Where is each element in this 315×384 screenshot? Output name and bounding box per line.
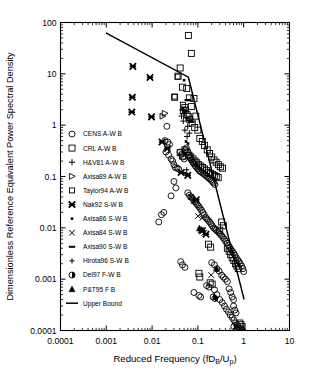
legend-item[interactable]: Nak92 S-W B <box>69 201 124 208</box>
marker-square <box>69 145 75 151</box>
x-tick-label: 0.01 <box>144 336 161 346</box>
legend-item[interactable]: Upper Bound <box>66 300 122 308</box>
legend-label: CRL A-W B <box>83 145 117 152</box>
marker-dot <box>183 79 186 82</box>
marker-circle <box>198 294 204 300</box>
marker-triangle-right <box>69 173 75 179</box>
legend-item[interactable]: Axisa89 A-W B <box>69 173 127 180</box>
x-tick-label: 10 <box>285 336 295 346</box>
y-tick-label: 100 <box>42 18 57 28</box>
x-axis-title: Reduced Frequency (fDB/Up) <box>113 353 236 366</box>
legend-item[interactable]: P&T95 F B <box>69 286 116 293</box>
marker-star <box>130 63 136 69</box>
legend-item[interactable]: Hirota96 S-W B <box>69 257 129 264</box>
figure-container: 0.00010.0010.010.11101001010.10.010.0010… <box>0 0 315 384</box>
legend-label: Taylor94 A-W B <box>83 187 129 195</box>
legend-label: Axisa89 A-W B <box>83 173 128 180</box>
legend: CENS A-W BCRL A-W BH&V81 A-W BAxisa89 A-… <box>66 130 129 307</box>
marker-plus <box>184 167 189 172</box>
marker-circle <box>69 131 75 137</box>
legend-item[interactable]: Axisa84 S-W B <box>69 229 128 236</box>
legend-item[interactable]: Axisa90 S-W B <box>69 243 128 250</box>
y-tick-label: 10 <box>47 69 57 79</box>
marker-circle <box>182 264 188 270</box>
marker-plus <box>182 127 188 133</box>
marker-circle <box>226 286 232 292</box>
y-tick-label: 0.0001 <box>30 326 57 336</box>
marker-square <box>188 50 194 56</box>
marker-square-small <box>172 94 177 99</box>
marker-circle <box>171 178 177 184</box>
marker-circle <box>196 293 202 299</box>
legend-label: Axisa86 S-W B <box>83 215 128 222</box>
y-tick-label: 0.001 <box>35 274 57 284</box>
x-tick-label: 1 <box>241 336 246 346</box>
marker-star <box>148 114 154 120</box>
marker-x <box>69 230 75 236</box>
legend-label: P&T95 F B <box>83 286 116 293</box>
legend-label: Axisa90 S-W B <box>83 243 128 250</box>
marker-square-small <box>70 188 75 193</box>
marker-square <box>185 32 191 38</box>
series-nak92-s-w-b <box>129 63 210 237</box>
legend-item[interactable]: CRL A-W B <box>69 145 117 152</box>
marker-square <box>217 164 223 170</box>
marker-circle <box>231 303 237 309</box>
y-tick-label: 0.1 <box>45 172 57 182</box>
legend-label: Hirota96 S-W B <box>83 257 129 264</box>
marker-plus <box>185 123 191 129</box>
legend-item[interactable]: Taylor94 A-W B <box>70 187 130 195</box>
marker-square <box>177 65 183 71</box>
marker-dot <box>187 142 190 145</box>
marker-dot <box>71 217 74 220</box>
scatter-plot: 0.00010.0010.010.11101001010.10.010.0010… <box>0 0 315 384</box>
marker-star <box>129 94 135 100</box>
marker-plus <box>69 159 75 165</box>
marker-x <box>208 272 214 278</box>
marker-circle <box>156 219 162 225</box>
series-axisa89-a-w-b <box>160 110 168 119</box>
legend-label: H&V81 A-W B <box>83 159 125 166</box>
marker-star <box>147 74 153 80</box>
y-tick-label: 0.01 <box>40 223 57 233</box>
tick-labels: 0.00010.0010.010.11101001010.10.010.0010… <box>30 18 294 346</box>
y-tick-label: 1 <box>52 120 57 130</box>
marker-square-small <box>175 74 180 79</box>
marker-square <box>188 104 194 110</box>
x-tick-label: 0.1 <box>192 336 204 346</box>
legend-label: Axisa84 S-W B <box>83 229 128 236</box>
marker-plus <box>69 258 74 263</box>
marker-triangle-up <box>69 286 75 292</box>
legend-item[interactable]: Del97 F-W B <box>69 271 121 278</box>
marker-star <box>129 109 135 115</box>
marker-circle <box>173 185 179 191</box>
legend-label: Nak92 S-W B <box>83 201 124 208</box>
axis-titles: Reduced Frequency (fDB/Up)Dimensionless … <box>5 52 237 366</box>
marker-square <box>220 165 226 171</box>
legend-label: Upper Bound <box>83 300 122 308</box>
legend-item[interactable]: Axisa86 S-W B <box>71 215 128 222</box>
legend-label: CENS A-W B <box>83 130 122 137</box>
legend-item[interactable]: CENS A-W B <box>69 130 122 137</box>
y-axis-title: Dimensionless Reference Equivalent Power… <box>5 52 15 301</box>
marker-circle <box>164 123 170 129</box>
x-tick-label: 0.0001 <box>47 336 74 346</box>
legend-label: Del97 F-W B <box>83 271 121 278</box>
marker-star <box>69 201 75 207</box>
x-tick-label: 0.001 <box>96 336 118 346</box>
series-taylor94-a-w-b <box>172 74 191 118</box>
data-layer <box>106 32 247 333</box>
marker-circle <box>168 193 174 199</box>
legend-item[interactable]: H&V81 A-W B <box>69 159 125 166</box>
